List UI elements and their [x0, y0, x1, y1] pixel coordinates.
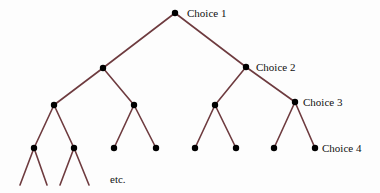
open-branch-edge	[34, 148, 47, 185]
tree-edge	[215, 105, 236, 148]
tree-edges	[20, 13, 315, 185]
tree-svg: Choice 1 Choice 2 Choice 3 Choice 4 etc.	[0, 0, 380, 193]
tree-edge	[134, 105, 156, 148]
tree-node-lrr	[153, 145, 159, 151]
tree-node-rrr	[312, 145, 318, 151]
choice-1-label: Choice 1	[187, 7, 226, 19]
tree-node-lr	[131, 102, 137, 108]
tree-node-lll	[31, 145, 37, 151]
tree-edge	[195, 105, 215, 148]
tree-node-root	[172, 10, 178, 16]
tree-edge	[54, 105, 74, 148]
tree-node-rll	[192, 145, 198, 151]
choice-4-label: Choice 4	[322, 142, 362, 154]
tree-node-rlr	[233, 145, 239, 151]
tree-node-lrl	[111, 145, 117, 151]
tree-edge	[175, 13, 246, 67]
tree-node-ll	[51, 102, 57, 108]
tree-edge	[103, 68, 134, 105]
tree-node-rl	[212, 102, 218, 108]
tree-edge	[215, 67, 246, 105]
tree-node-l	[100, 65, 106, 71]
tree-edge	[34, 105, 54, 148]
tree-node-llr	[71, 145, 77, 151]
etc-label: etc.	[110, 173, 126, 185]
choice-3-label: Choice 3	[303, 96, 343, 108]
tree-node-rr	[292, 99, 298, 105]
tree-edge	[103, 13, 175, 68]
tree-node-rrl	[271, 145, 277, 151]
open-branch-edge	[60, 148, 74, 185]
open-branch-edge	[20, 148, 34, 185]
tree-edge	[54, 68, 103, 105]
choice-2-label: Choice 2	[256, 61, 295, 73]
tree-edge	[274, 102, 295, 148]
tree-edge	[114, 105, 134, 148]
tree-node-r	[243, 64, 249, 70]
open-branch-edge	[74, 148, 89, 185]
tree-nodes	[31, 10, 318, 151]
decision-tree-diagram: Choice 1 Choice 2 Choice 3 Choice 4 etc.	[0, 0, 380, 193]
tree-edge	[295, 102, 315, 148]
